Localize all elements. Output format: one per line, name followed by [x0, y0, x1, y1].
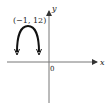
parabola-curve — [17, 26, 39, 52]
coordinate-graph: (−1, 12) y x 0 — [0, 0, 111, 108]
x-axis-label: x — [100, 58, 105, 67]
origin-label: 0 — [50, 65, 54, 73]
y-axis-label: y — [51, 4, 57, 13]
vertex-label: (−1, 12) — [13, 16, 46, 25]
